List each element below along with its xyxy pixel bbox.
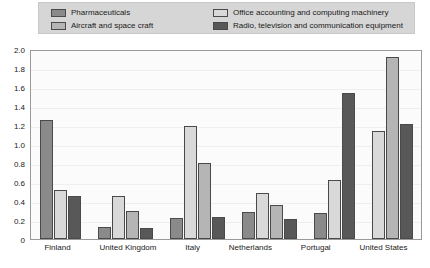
y-axis-tick-label: 0 — [21, 236, 25, 245]
legend-label-office-machinery: Office accounting and computing machiner… — [233, 8, 389, 17]
bar — [198, 163, 211, 239]
legend-column-left: Pharmaceuticals Aircraft and space craft — [51, 6, 153, 32]
y-axis-tick-label: 1.0 — [14, 141, 25, 150]
legend-swatch-radio-tv-icon — [213, 22, 228, 30]
bar — [270, 205, 283, 239]
x-axis-tick-label: Finland — [44, 243, 70, 257]
x-axis: FinlandUnited KingdomItalyNetherlandsPor… — [30, 243, 422, 257]
chart-legend: Pharmaceuticals Aircraft and space craft… — [38, 2, 415, 34]
legend-swatch-pharmaceuticals-icon — [51, 9, 66, 17]
bar — [314, 213, 327, 239]
legend-entry-office-machinery: Office accounting and computing machiner… — [213, 6, 403, 19]
x-axis-tick-label: Netherlands — [229, 243, 272, 257]
x-axis-tick-label: Portugal — [301, 243, 331, 257]
bar — [328, 180, 341, 239]
legend-swatch-office-machinery-icon — [213, 9, 228, 17]
bar-group-portugal — [314, 51, 355, 239]
legend-entry-radio-tv: Radio, television and communication equi… — [213, 19, 403, 32]
y-axis-tick-label: 0.6 — [14, 179, 25, 188]
bar — [242, 212, 255, 239]
bar-group-united-states — [372, 51, 413, 239]
legend-label-pharmaceuticals: Pharmaceuticals — [71, 8, 130, 17]
legend-label-aircraft: Aircraft and space craft — [71, 21, 153, 30]
legend-entry-pharmaceuticals: Pharmaceuticals — [51, 6, 153, 19]
y-axis-tick-label: 0.4 — [14, 198, 25, 207]
y-axis-tick-label: 0.8 — [14, 160, 25, 169]
bar — [184, 126, 197, 239]
y-axis-tick-label: 1.6 — [14, 84, 25, 93]
bar — [386, 57, 399, 239]
y-axis-tick-label: 1.8 — [14, 65, 25, 74]
bar-group-finland — [40, 51, 81, 239]
bar — [54, 190, 67, 239]
y-axis-tick-label: 2.0 — [14, 46, 25, 55]
bar-group-italy — [170, 51, 225, 239]
bar — [170, 218, 183, 239]
chart-page: Pharmaceuticals Aircraft and space craft… — [0, 0, 430, 268]
bar — [68, 196, 81, 239]
bar — [400, 124, 413, 239]
y-axis-tick-label: 1.4 — [14, 103, 25, 112]
bar — [112, 196, 125, 239]
y-axis-tick-label: 0.2 — [14, 217, 25, 226]
x-axis-tick-label: United Kingdom — [100, 243, 157, 257]
bar — [40, 120, 53, 239]
x-axis-tick-label: United States — [360, 243, 408, 257]
bar-group-united-kingdom — [98, 51, 153, 239]
legend-column-right: Office accounting and computing machiner… — [213, 6, 403, 32]
bar-group-netherlands — [242, 51, 297, 239]
legend-label-radio-tv: Radio, television and communication equi… — [233, 21, 403, 30]
bar — [126, 211, 139, 239]
bar — [372, 131, 385, 239]
bar — [212, 217, 225, 239]
plot-area — [30, 50, 422, 240]
bar-groups — [31, 51, 421, 239]
y-axis: 2.01.81.61.41.21.00.80.60.40.20 — [0, 50, 28, 240]
bar — [284, 219, 297, 239]
bar — [140, 228, 153, 239]
bar — [342, 93, 355, 239]
bar — [98, 227, 111, 239]
bar — [256, 193, 269, 239]
x-axis-tick-label: Italy — [185, 243, 200, 257]
y-axis-tick-label: 1.2 — [14, 122, 25, 131]
legend-swatch-aircraft-icon — [51, 22, 66, 30]
legend-entry-aircraft: Aircraft and space craft — [51, 19, 153, 32]
